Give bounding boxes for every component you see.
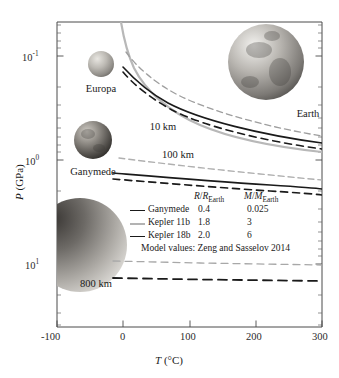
legend-mass-ganymede: 0.025 bbox=[247, 205, 268, 215]
legend-swatch-ganymede bbox=[130, 210, 145, 211]
x-tick-label-2: 100 bbox=[180, 332, 196, 343]
legend: R/REarth M/MEarth Ganymede 0.4 0.025 Kep… bbox=[130, 192, 305, 257]
body-label-earth: Earth bbox=[297, 109, 320, 120]
x-tick-label-0: -100 bbox=[41, 332, 60, 343]
legend-header-radius: R/REarth bbox=[194, 192, 224, 203]
body-label-europa: Europa bbox=[86, 84, 116, 95]
x-axis-title: T (°C) bbox=[155, 355, 183, 366]
y-tick-label-2: 101 bbox=[25, 258, 39, 271]
legend-source-row: Model values: Zeng and Sasselov 2014 bbox=[130, 244, 305, 257]
figure-canvas bbox=[0, 0, 339, 378]
legend-name-kepler11b: Kepler 11b bbox=[148, 218, 190, 228]
legend-name-kepler18b: Kepler 18b bbox=[148, 231, 190, 241]
curve-kepler11b-800km bbox=[113, 261, 322, 265]
x-axis-ticks bbox=[57, 321, 322, 328]
body-sphere-europa bbox=[88, 51, 114, 77]
legend-header-mass: M/MEarth bbox=[244, 192, 278, 203]
contour-label-10km: 10 km bbox=[150, 122, 177, 133]
legend-mass-kepler18b: 6 bbox=[247, 231, 252, 241]
y-tick-label-1: 100 bbox=[25, 154, 39, 167]
legend-source: Model values: Zeng and Sasselov 2014 bbox=[141, 244, 290, 254]
contour-label-800km: 800 km bbox=[80, 279, 112, 290]
body-sphere-ganymede bbox=[74, 121, 112, 159]
legend-swatch-kepler11b bbox=[130, 223, 145, 225]
legend-name-ganymede: Ganymede bbox=[148, 205, 189, 215]
contour-label-100km: 100 km bbox=[162, 150, 194, 161]
x-tick-label-3: 200 bbox=[246, 332, 262, 343]
legend-swatch-kepler18b bbox=[130, 236, 145, 237]
legend-radius-kepler11b: 1.8 bbox=[198, 218, 210, 228]
legend-mass-kepler11b: 3 bbox=[247, 218, 252, 228]
legend-radius-kepler18b: 2.0 bbox=[198, 231, 210, 241]
x-tick-label-4: 300 bbox=[312, 332, 328, 343]
curve-kepler18b-800km bbox=[113, 278, 322, 281]
legend-radius-ganymede: 0.4 bbox=[198, 205, 210, 215]
y-axis-title: P (GPa) bbox=[14, 164, 25, 200]
y-tick-label-0: 10-1 bbox=[22, 50, 39, 63]
x-tick-label-1: 0 bbox=[120, 332, 125, 343]
body-label-ganymede: Ganymede bbox=[70, 167, 115, 178]
